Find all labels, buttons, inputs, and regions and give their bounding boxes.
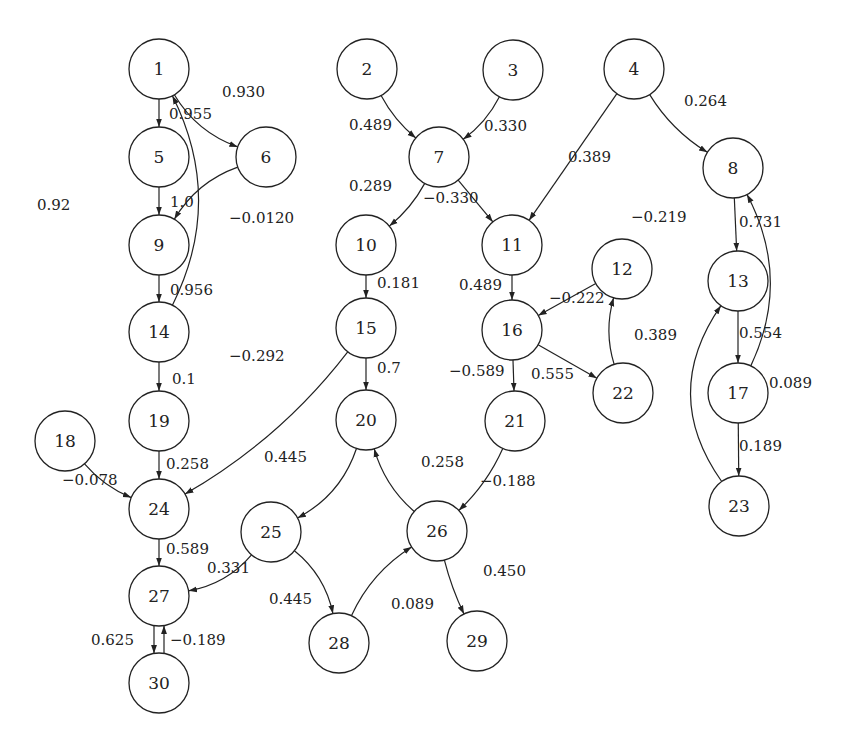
node-label: 20 <box>355 410 377 430</box>
edge-16-to-21 <box>513 360 514 391</box>
edge-weight-14-to-1: 0.92 <box>37 196 70 214</box>
node-10: 10 <box>336 215 396 275</box>
edge-weight-16-to-21: −0.589 <box>449 362 505 380</box>
node-29: 29 <box>447 611 507 671</box>
edge-15-to-24 <box>185 352 348 494</box>
node-18: 18 <box>35 411 95 471</box>
node-label: 11 <box>501 235 523 255</box>
edge-weight-11-to-16: 0.489 <box>459 276 502 294</box>
node-label: 18 <box>54 431 76 451</box>
node-22: 22 <box>593 363 653 423</box>
node-label: 14 <box>148 322 170 342</box>
node-label: 15 <box>355 318 377 338</box>
edge-26-to-29 <box>444 560 464 614</box>
node-9: 9 <box>129 215 189 275</box>
edge-weight-25-to-28: 0.445 <box>269 590 312 608</box>
node-label: 8 <box>728 158 739 178</box>
node-label: 28 <box>328 633 350 653</box>
node-3: 3 <box>483 40 543 100</box>
node-label: 1 <box>154 59 165 79</box>
node-label: 6 <box>261 147 272 167</box>
node-27: 27 <box>129 566 189 626</box>
node-5: 5 <box>129 127 189 187</box>
edge-weight-30-to-27: −0.189 <box>170 631 226 649</box>
node-label: 21 <box>504 411 526 431</box>
node-16: 16 <box>482 300 542 360</box>
edge-weight-9-to-14: 0.956 <box>170 281 213 299</box>
edge-weight-7-to-11: −0.330 <box>423 189 479 207</box>
edge-weight-7-to-10: 0.289 <box>349 177 392 195</box>
node-6: 6 <box>236 127 296 187</box>
node-label: 19 <box>148 411 170 431</box>
node-14: 14 <box>129 302 189 362</box>
node-7: 7 <box>409 127 469 187</box>
edge-weight-16-to-22: 0.555 <box>531 365 574 383</box>
node-21: 21 <box>485 391 545 451</box>
node-label: 22 <box>612 383 634 403</box>
node-label: 23 <box>728 496 750 516</box>
edge-weight-13-to-17: 0.554 <box>739 324 782 342</box>
node-2: 2 <box>337 39 397 99</box>
edge-weight-28-to-26: 0.089 <box>391 595 434 613</box>
edge-weight-1-to-6: 0.930 <box>222 83 265 101</box>
edge-weight-14-to-19: 0.1 <box>172 370 196 388</box>
edge-weight-8-to-13: 0.731 <box>739 213 782 231</box>
edge-weight-18-to-24: −0.078 <box>62 471 118 489</box>
node-label: 16 <box>501 320 523 340</box>
node-label: 29 <box>466 631 488 651</box>
edge-weight-2-to-7: 0.489 <box>349 116 392 134</box>
edge-weight-23-to-13: 0.089 <box>769 374 812 392</box>
edge-7-to-10 <box>389 183 424 226</box>
node-label: 30 <box>148 673 170 693</box>
node-1: 1 <box>129 39 189 99</box>
edge-weight-24-to-27: 0.589 <box>166 540 209 558</box>
node-13: 13 <box>708 251 768 311</box>
edge-weight-6-to-9: −0.0120 <box>229 209 294 227</box>
node-label: 26 <box>426 521 448 541</box>
edge-weight-4-to-11: 0.389 <box>568 148 611 166</box>
edge-weight-27-to-30: 0.625 <box>91 631 134 649</box>
edge-26-to-20 <box>374 449 414 512</box>
node-30: 30 <box>129 653 189 713</box>
edge-weight-15-to-20: 0.7 <box>377 359 401 377</box>
edge-weight-25-to-27: 0.331 <box>207 559 250 577</box>
edge-weight-10-to-15: 0.181 <box>377 274 420 292</box>
node-label: 5 <box>154 147 165 167</box>
edge-weight-17-to-23: 0.189 <box>739 437 782 455</box>
node-24: 24 <box>129 479 189 539</box>
node-label: 2 <box>362 59 373 79</box>
edge-8-to-13 <box>734 198 736 251</box>
edge-weight-17-to-8: −0.219 <box>631 208 687 226</box>
edge-weight-5-to-9: 1.0 <box>170 193 194 211</box>
node-23: 23 <box>709 476 769 536</box>
edge-weight-4-to-8: 0.264 <box>684 92 727 110</box>
edge-weight-12-to-16: −0.222 <box>549 289 605 307</box>
node-11: 11 <box>482 215 542 275</box>
node-label: 12 <box>611 259 633 279</box>
edge-weight-1-to-5: 0.955 <box>169 105 212 123</box>
node-19: 19 <box>129 391 189 451</box>
node-label: 4 <box>629 59 640 79</box>
node-17: 17 <box>708 363 768 423</box>
graph-canvas: 1234567891011121314151617181920212223242… <box>0 0 849 743</box>
edge-22-to-12 <box>609 298 614 365</box>
node-label: 10 <box>355 235 377 255</box>
node-label: 13 <box>727 271 749 291</box>
node-8: 8 <box>703 138 763 198</box>
node-4: 4 <box>604 39 664 99</box>
node-label: 25 <box>260 522 282 542</box>
edge-weight-26-to-20: 0.258 <box>421 453 464 471</box>
node-label: 27 <box>148 586 170 606</box>
edge-weight-20-to-25: 0.445 <box>264 448 307 466</box>
node-20: 20 <box>336 390 396 450</box>
node-label: 9 <box>154 235 165 255</box>
edge-weight-3-to-7: 0.330 <box>484 117 527 135</box>
edge-weight-26-to-29: 0.450 <box>483 562 526 580</box>
node-25: 25 <box>241 502 301 562</box>
edge-weight-21-to-26: −0.188 <box>480 472 536 490</box>
node-label: 17 <box>727 383 749 403</box>
node-label: 3 <box>508 60 519 80</box>
node-28: 28 <box>309 613 369 673</box>
node-label: 7 <box>434 147 445 167</box>
node-label: 24 <box>148 499 170 519</box>
